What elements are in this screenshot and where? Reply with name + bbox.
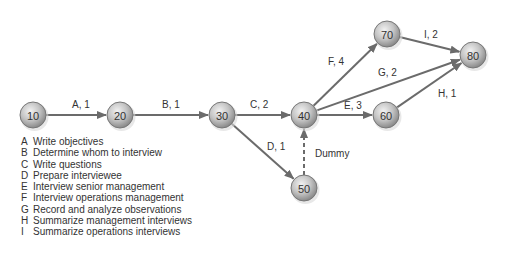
activity-legend: AWrite objectivesBDetermine whom to inte…	[21, 136, 192, 238]
legend-text: Record and analyze observations	[33, 204, 181, 215]
legend-item: GRecord and analyze observations	[21, 204, 192, 215]
legend-key: B	[21, 147, 33, 158]
legend-key: C	[21, 159, 33, 170]
node-label: 70	[381, 29, 393, 41]
legend-key: H	[21, 215, 33, 226]
node-label: 20	[114, 110, 126, 122]
legend-item: EInterview senior management	[21, 181, 192, 192]
legend-key: I	[21, 226, 33, 237]
node-50: 50	[291, 175, 320, 204]
legend-text: Determine whom to interview	[33, 147, 162, 158]
edge-label: C, 2	[250, 99, 269, 110]
edge-label: D, 1	[267, 141, 286, 152]
edge-label: Dummy	[315, 148, 349, 159]
legend-text: Summarize operations interviews	[33, 226, 180, 237]
edge-label: I, 2	[424, 29, 438, 40]
node-label: 30	[216, 110, 228, 122]
legend-item: CWrite questions	[21, 159, 192, 170]
node-10: 10	[20, 102, 49, 131]
legend-text: Write objectives	[33, 136, 103, 147]
edge-label: F, 4	[328, 56, 345, 67]
legend-key: E	[21, 181, 33, 192]
legend-item: FInterview operations management	[21, 192, 192, 203]
node-80: 80	[460, 42, 489, 71]
legend-text: Interview operations management	[33, 192, 184, 203]
node-label: 40	[298, 110, 310, 122]
node-label: 50	[298, 183, 310, 195]
node-70: 70	[374, 21, 403, 50]
legend-text: Interview senior management	[33, 181, 164, 192]
legend-key: F	[21, 192, 33, 203]
legend-text: Summarize management interviews	[33, 215, 192, 226]
node-30: 30	[209, 102, 238, 131]
legend-item: DPrepare interviewee	[21, 170, 192, 181]
legend-key: A	[21, 136, 33, 147]
node-label: 10	[27, 110, 39, 122]
legend-key: D	[21, 170, 33, 181]
legend-item: HSummarize management interviews	[21, 215, 192, 226]
legend-text: Prepare interviewee	[33, 170, 122, 181]
node-label: 80	[467, 50, 479, 62]
edge-40-70	[313, 44, 377, 106]
legend-item: ISummarize operations interviews	[21, 226, 192, 237]
edge-label: E, 3	[344, 100, 362, 111]
edge-label: B, 1	[162, 99, 180, 110]
legend-key: G	[21, 204, 33, 215]
legend-item: BDetermine whom to interview	[21, 147, 192, 158]
legend-text: Write questions	[33, 159, 102, 170]
edge-label: H, 1	[438, 88, 457, 99]
node-40: 40	[291, 102, 320, 131]
edge-label: G, 2	[378, 67, 397, 78]
legend-item: AWrite objectives	[21, 136, 192, 147]
node-label: 60	[380, 110, 392, 122]
node-20: 20	[107, 102, 136, 131]
edge-label: A, 1	[72, 99, 90, 110]
